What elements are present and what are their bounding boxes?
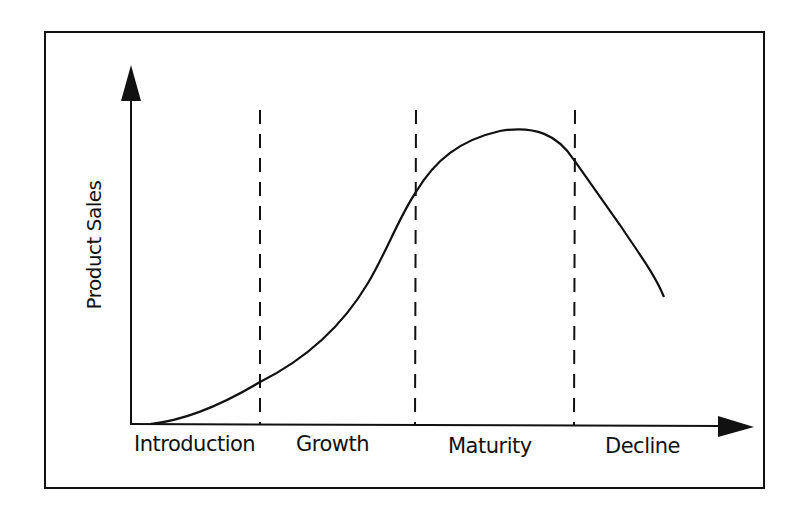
y-axis-label: Product Sales <box>82 180 106 309</box>
product-life-cycle-diagram <box>0 0 800 507</box>
stage-label-growth: Growth <box>296 432 369 456</box>
stage-label-introduction: Introduction <box>134 432 255 456</box>
stage-label-maturity: Maturity <box>448 434 532 458</box>
stage-label-decline: Decline <box>605 434 680 458</box>
x-axis <box>130 424 722 426</box>
y-axis-arrow-icon <box>121 65 141 101</box>
stage-divider-3 <box>574 110 575 426</box>
sales-curve <box>150 129 664 424</box>
frame-border <box>45 32 764 488</box>
stage-divider-2 <box>415 110 416 425</box>
x-axis-arrow-icon <box>718 416 754 437</box>
